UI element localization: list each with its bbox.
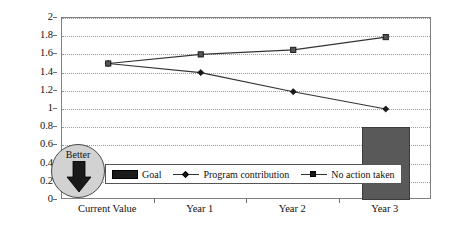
legend-entry: Goal [112, 169, 161, 180]
data-point-marker [198, 52, 203, 57]
y-axis-tick-mark [53, 72, 57, 73]
y-axis-tick-label: 1.8 [3, 30, 53, 40]
series-line [108, 64, 386, 110]
legend-marker-icon [182, 170, 189, 177]
legend-bar-swatch [112, 170, 138, 179]
x-axis-tick-mark [154, 198, 155, 203]
y-axis-tick-label: 0.2 [3, 176, 53, 186]
y-axis-tick-mark [53, 17, 57, 18]
y-axis-tick-mark [53, 108, 57, 109]
y-axis: 00.20.40.60.811.21.41.61.82 [0, 17, 57, 199]
y-axis-tick-label: 1.6 [3, 48, 53, 58]
legend-label: Goal [142, 169, 161, 180]
x-axis-tick-mark [246, 198, 247, 203]
x-axis: Current ValueYear 1Year 2Year 3 [61, 203, 431, 225]
y-axis-tick-mark [53, 53, 57, 54]
data-point-marker [383, 35, 388, 40]
y-axis-tick-label: 1.2 [3, 85, 53, 95]
x-axis-tick-label: Year 2 [279, 203, 306, 214]
y-axis-tick-label: 1.4 [3, 67, 53, 77]
x-axis-tick-label: Current Value [78, 203, 136, 214]
y-axis-tick-label: 0.6 [3, 139, 53, 149]
y-axis-tick-label: 1 [3, 103, 53, 113]
y-axis-tick-mark [53, 199, 57, 200]
y-axis-tick-mark [53, 144, 57, 145]
better-indicator-badge: Better [51, 144, 105, 198]
legend-line-swatch [301, 170, 327, 179]
data-point-marker [198, 70, 204, 76]
legend-marker-icon [310, 171, 316, 177]
y-axis-tick-label: 0 [3, 194, 53, 204]
legend-label: Program contribution [203, 169, 289, 180]
data-point-marker [290, 89, 296, 95]
y-axis-tick-label: 0.4 [3, 158, 53, 168]
data-point-marker [291, 47, 296, 52]
series-line [108, 37, 386, 63]
legend-entry: Program contribution [173, 169, 289, 180]
data-point-marker [106, 61, 111, 66]
x-axis-tick-label: Year 3 [371, 203, 398, 214]
x-axis-tick-label: Year 1 [186, 203, 213, 214]
better-label: Better [52, 149, 104, 160]
data-point-marker [383, 106, 389, 112]
y-axis-tick-mark [53, 126, 57, 127]
x-axis-tick-mark [339, 198, 340, 203]
y-axis-tick-label: 2 [3, 12, 53, 22]
down-arrow-icon [52, 161, 106, 195]
legend-entry: No action taken [301, 169, 394, 180]
y-axis-tick-mark [53, 35, 57, 36]
legend-label: No action taken [331, 169, 394, 180]
legend-line-swatch [173, 170, 199, 179]
y-axis-tick-mark [53, 90, 57, 91]
chart-legend: GoalProgram contributionNo action taken [105, 164, 402, 184]
y-axis-tick-label: 0.8 [3, 121, 53, 131]
chart-container: 00.20.40.60.811.21.41.61.82 Current Valu… [0, 0, 464, 232]
